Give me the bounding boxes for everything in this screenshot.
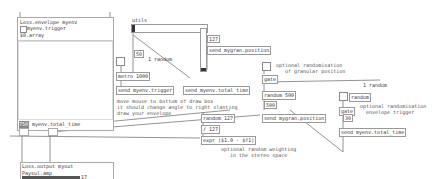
granular-toggle[interactable] bbox=[262, 62, 271, 71]
random-b-object: random bbox=[349, 93, 371, 102]
output-title: Loss.output myout bbox=[22, 163, 73, 170]
number-127[interactable]: 127 bbox=[207, 35, 220, 43]
metro-toggle[interactable] bbox=[116, 57, 125, 66]
number-50[interactable]: 50 bbox=[134, 50, 144, 58]
inlet-left bbox=[19, 128, 29, 136]
inlet-right bbox=[48, 128, 58, 136]
utils-label: utils bbox=[132, 17, 147, 24]
send-position-object: send mygran.position bbox=[207, 46, 271, 55]
random-label-2: 1 random bbox=[363, 82, 387, 89]
vertical-slider[interactable] bbox=[200, 28, 207, 72]
random-127-object: random 127 bbox=[201, 114, 235, 123]
random-label: 1 random bbox=[148, 56, 172, 63]
total-time-number[interactable]: 750 bbox=[19, 121, 29, 128]
total-time-label: myenv.total_time bbox=[32, 121, 80, 128]
send-total-time-2-object: send myenv.total_time bbox=[339, 128, 406, 137]
granular-comment: optional randomisation of granular posit… bbox=[276, 62, 345, 74]
div-127-object: / 127 bbox=[201, 125, 220, 134]
horizontal-slider[interactable] bbox=[131, 24, 208, 33]
trigger-label: myenv.trigger bbox=[27, 25, 66, 32]
number-500[interactable]: 500 bbox=[264, 101, 277, 109]
expr-object: expr ($1.0 - $f1) bbox=[201, 136, 256, 145]
metro-object: metro 1000 bbox=[116, 72, 150, 81]
amp-slider[interactable] bbox=[22, 176, 80, 179]
envelope-toggle[interactable] bbox=[339, 92, 348, 101]
send-trigger-object: send myenv.trigger bbox=[116, 86, 174, 95]
send-position-2-object: send mygran.position bbox=[262, 114, 326, 123]
gate-object: gate bbox=[262, 75, 278, 84]
envelope-subpatch[interactable]: Loss.envelope myenv myenv.trigger $0.arr… bbox=[17, 17, 114, 131]
stereo-comment: optional random weighting in the stereo … bbox=[221, 146, 296, 158]
output-subpatch[interactable]: Loss.output myout Paysul.amp 17 bbox=[20, 162, 114, 179]
envelope-comment: optional randomisation envelope trigger bbox=[360, 103, 426, 115]
random-500-object: random 500 bbox=[262, 91, 296, 100]
amp-value: 17 bbox=[81, 174, 87, 179]
array-label: $0.array bbox=[20, 32, 44, 39]
number-30[interactable]: 30 bbox=[343, 114, 353, 122]
send-total-time-object: send myenv.total_time bbox=[183, 86, 250, 95]
draw-box[interactable] bbox=[18, 41, 113, 120]
